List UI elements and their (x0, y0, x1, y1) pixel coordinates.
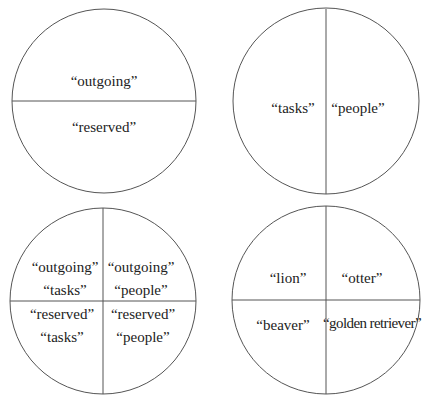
label-q4-line1: “reserved” (111, 307, 175, 322)
label-q1-line1: “outgoing” (32, 260, 99, 275)
label-q2-line1: “outgoing” (108, 260, 175, 275)
label-outgoing: “outgoing” (71, 74, 138, 89)
label-q3-line2: “tasks” (40, 330, 83, 345)
label-people: “people” (331, 101, 384, 116)
label-q1-line2: “tasks” (43, 283, 86, 298)
label-otter: “otter” (342, 271, 383, 286)
label-lion: “lion” (270, 271, 307, 286)
label-beaver: “beaver” (256, 318, 309, 333)
label-tasks: “tasks” (271, 101, 314, 116)
diagram-canvas (0, 0, 430, 408)
label-reserved: “reserved” (72, 120, 136, 135)
label-golden-retriever: “golden retriever” (323, 316, 421, 331)
label-q3-line1: “reserved” (30, 307, 94, 322)
label-q2-line2: “people” (114, 283, 167, 298)
label-q4-line2: “people” (116, 330, 169, 345)
